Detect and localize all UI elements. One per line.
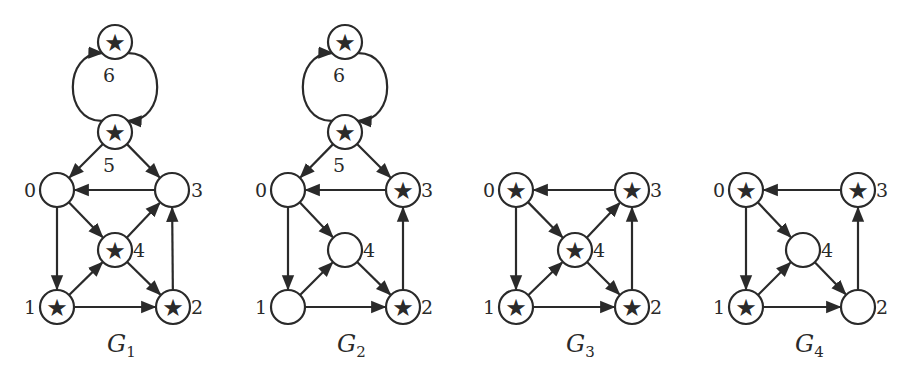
node-circle [40, 173, 74, 207]
node-4: 4 [786, 233, 833, 267]
node-circle [271, 173, 305, 207]
graph-figure: 0★1★23★4★5★601★2★34★5★6★0★1★2★3★4★0★12★3… [0, 0, 911, 373]
arc-edge-5-to-6 [303, 53, 332, 121]
star-icon: ★ [505, 177, 527, 205]
star-icon: ★ [334, 119, 356, 147]
star-icon: ★ [392, 177, 414, 205]
edge-1-to-4 [758, 263, 790, 295]
node-4: ★4 [98, 233, 145, 267]
edge-0-to-4 [528, 202, 562, 237]
node-label: 3 [876, 179, 888, 201]
star-icon: ★ [621, 294, 643, 322]
node-0: ★0 [483, 173, 533, 207]
caption-subscript: 2 [356, 343, 366, 361]
graph-caption-g2: G2 [337, 330, 366, 361]
edge-4-to-3 [127, 203, 160, 238]
edge-4-to-3 [587, 203, 620, 238]
star-icon: ★ [104, 29, 126, 57]
node-circle [841, 290, 875, 324]
node-6: ★6 [328, 25, 362, 86]
arc-edge-5-to-6 [73, 53, 102, 121]
graph-caption-g4: G4 [795, 330, 824, 361]
graph-g2-nodes: 01★2★34★5★6 [255, 25, 433, 324]
node-label: 1 [24, 296, 36, 318]
caption-subscript: 4 [814, 343, 824, 361]
node-0: 0 [24, 173, 74, 207]
edge-4-to-2 [587, 262, 619, 294]
edge-5-to-0 [301, 144, 333, 177]
node-4: ★4 [558, 233, 605, 267]
node-label: 0 [713, 179, 725, 201]
node-label: 5 [103, 154, 115, 176]
node-label: 0 [483, 179, 495, 201]
node-label: 4 [133, 239, 145, 261]
node-label: 2 [421, 296, 433, 318]
node-2: ★2 [615, 290, 662, 324]
node-label: 3 [421, 179, 433, 201]
graph-g1-nodes: 0★1★23★4★5★6 [24, 25, 203, 324]
edge-1-to-4 [300, 263, 332, 295]
star-icon: ★ [392, 294, 414, 322]
node-2: 2 [841, 290, 888, 324]
node-circle [328, 233, 362, 267]
node-label: 1 [483, 296, 495, 318]
arc-edge-6-to-5 [358, 53, 387, 121]
node-label: 4 [821, 239, 833, 261]
caption-subscript: 1 [126, 343, 136, 361]
star-icon: ★ [564, 237, 586, 265]
graph-g4-nodes: ★0★12★34 [713, 173, 888, 324]
star-icon: ★ [505, 294, 527, 322]
edge-5-to-3 [127, 144, 159, 177]
star-icon: ★ [621, 177, 643, 205]
node-label: 2 [191, 296, 203, 318]
graphs-canvas: 0★1★23★4★5★601★2★34★5★6★0★1★2★3★4★0★12★3… [0, 0, 911, 373]
node-3: 3 [155, 173, 203, 207]
graph-caption-g3: G3 [566, 330, 595, 361]
arc-edge-6-to-5 [128, 53, 157, 121]
captions-layer: G1G2G3G4 [107, 330, 824, 361]
edge-4-to-2 [357, 262, 390, 294]
node-6: ★6 [98, 25, 132, 86]
star-icon: ★ [104, 237, 126, 265]
node-label: 4 [593, 239, 605, 261]
node-label: 1 [255, 296, 267, 318]
node-label: 5 [333, 154, 345, 176]
star-icon: ★ [735, 177, 757, 205]
node-label: 3 [650, 179, 662, 201]
node-3: ★3 [615, 173, 662, 207]
node-label: 2 [650, 296, 662, 318]
graph-caption-g1: G1 [107, 330, 136, 361]
star-icon: ★ [104, 119, 126, 147]
edge-0-to-4 [300, 202, 333, 237]
node-5: ★5 [328, 115, 362, 176]
edge-4-to-2 [127, 262, 160, 294]
edge-1-to-4 [69, 263, 102, 295]
node-1: ★1 [24, 290, 74, 324]
edge-1-to-4 [528, 263, 562, 296]
star-icon: ★ [162, 294, 184, 322]
node-label: 6 [103, 64, 115, 86]
node-0: ★0 [713, 173, 763, 207]
edge-5-to-3 [357, 144, 390, 177]
node-5: ★5 [98, 115, 132, 176]
node-1: ★1 [483, 290, 533, 324]
star-icon: ★ [46, 294, 68, 322]
star-icon: ★ [847, 177, 869, 205]
node-2: ★2 [156, 290, 203, 324]
node-circle [155, 173, 189, 207]
edge-4-to-2 [815, 262, 846, 294]
node-1: 1 [255, 290, 305, 324]
node-0: 0 [255, 173, 305, 207]
node-label: 2 [876, 296, 888, 318]
edge-5-to-0 [70, 144, 103, 177]
node-3: ★3 [386, 173, 433, 207]
node-label: 0 [24, 179, 36, 201]
edge-0-to-4 [758, 202, 791, 237]
star-icon: ★ [735, 294, 757, 322]
star-icon: ★ [334, 29, 356, 57]
node-label: 3 [191, 179, 203, 201]
node-3: ★3 [841, 173, 888, 207]
node-label: 1 [713, 296, 725, 318]
node-1: ★1 [713, 290, 763, 324]
graph-g2-edges [288, 53, 403, 307]
